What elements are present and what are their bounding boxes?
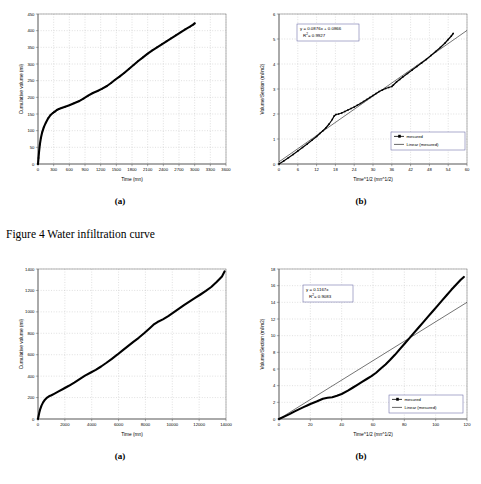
y-tick-label: 0 (273, 162, 276, 167)
y-tick-label: 5 (273, 37, 276, 42)
x-tick-label: 14000 (220, 422, 232, 427)
data-point-marker (138, 60, 140, 62)
data-point-marker (43, 127, 45, 129)
y-tick-label: 14 (271, 300, 276, 305)
x-tick-label: 18 (333, 167, 338, 172)
data-point-marker (385, 88, 387, 90)
data-point-marker (180, 32, 182, 34)
y-tick-label: 300 (27, 62, 35, 67)
data-point-marker (297, 150, 299, 152)
equation-text: y = 0.1167x (306, 287, 329, 292)
y-tick-label: 4 (273, 383, 276, 388)
data-point-marker (92, 92, 94, 94)
data-point-marker (128, 68, 130, 70)
x-tick-label: 54 (446, 167, 451, 172)
data-point-marker (37, 163, 39, 165)
data-point-marker (360, 103, 362, 105)
x-tick-label: 40 (339, 422, 344, 427)
data-point-marker (61, 107, 63, 109)
sublabel-bottom-a: (a) (0, 451, 240, 461)
data-point-marker (416, 66, 418, 68)
y-tick-label: 1000 (25, 309, 35, 314)
y-tick-label: 200 (27, 395, 35, 400)
legend-marker-icon (398, 135, 401, 138)
x-tick-label: 120 (464, 422, 472, 427)
x-tick-label: 1200 (96, 167, 106, 172)
data-point-marker (47, 118, 49, 120)
x-tick-label: 2400 (159, 167, 169, 172)
y-tick-label: 16 (271, 283, 276, 288)
x-tick-label: 6 (297, 167, 300, 172)
data-point-marker (447, 39, 449, 41)
chart-panel-top-b: 061218243036424854600123456Time^1/2 (mn^… (241, 0, 481, 215)
data-point-marker (54, 111, 56, 113)
data-point-marker (325, 127, 327, 129)
y-tick-label: 0 (32, 162, 35, 167)
data-point-marker (426, 59, 428, 61)
chart-bottom-a: 0200040006000800010000120001400002004006… (0, 255, 240, 455)
data-point-marker (142, 57, 144, 59)
legend-label: Linear (mesured) (405, 405, 437, 410)
y-tick-label: 350 (27, 45, 35, 50)
data-point-marker (288, 157, 290, 159)
data-point-marker (350, 108, 352, 110)
data-point-marker (333, 115, 335, 117)
x-tick-label: 2100 (143, 167, 153, 172)
data-point-marker (64, 106, 66, 108)
data-point-marker (369, 97, 371, 99)
data-point-marker (341, 112, 343, 114)
x-tick-label: 48 (427, 167, 432, 172)
data-point-marker (69, 105, 71, 107)
data-point-marker (316, 136, 318, 138)
y-tick-label: 1 (273, 137, 276, 142)
data-point-marker (101, 88, 103, 90)
data-point-marker (347, 109, 349, 111)
data-point-marker (353, 106, 355, 108)
data-point-marker (170, 38, 172, 40)
y-tick-label: 100 (27, 128, 35, 133)
y-tick-label: 1400 (25, 267, 35, 272)
y-tick-label: 6 (273, 367, 276, 372)
x-tick-label: 0 (278, 167, 281, 172)
y-axis-title: Volume/Section (ml/m2) (260, 63, 265, 114)
x-axis-title: Time (mn) (121, 177, 143, 182)
x-tick-label: 900 (82, 167, 90, 172)
data-point-marker (396, 81, 398, 83)
x-tick-label: 60 (371, 422, 376, 427)
legend-box (389, 395, 463, 413)
data-point-marker (338, 113, 340, 115)
y-axis-title: Cumulative volume (ml) (19, 318, 24, 369)
y-tick-label: 450 (27, 12, 35, 17)
x-tick-label: 0 (278, 422, 281, 427)
y-tick-label: 400 (27, 28, 35, 33)
data-point-marker (50, 114, 52, 116)
data-point-marker (123, 72, 125, 74)
data-point-marker (382, 89, 384, 91)
data-point-marker (402, 76, 404, 78)
x-tick-label: 1500 (112, 167, 122, 172)
figure-page: 0300600900120015001800210024002700300033… (0, 0, 481, 484)
x-tick-label: 3600 (221, 167, 231, 172)
data-point-marker (40, 137, 42, 139)
data-point-marker (440, 47, 442, 49)
data-point-marker (192, 24, 194, 26)
x-tick-label: 80 (402, 422, 407, 427)
data-point-marker (302, 147, 304, 149)
data-point-marker (283, 160, 285, 162)
y-tick-label: 400 (27, 374, 35, 379)
y-tick-label: 150 (27, 112, 35, 117)
data-point-marker (399, 79, 401, 81)
data-point-marker (52, 112, 54, 114)
x-axis-title: Time^1/2 (mn^1/2) (353, 177, 393, 182)
data-point-marker (322, 130, 324, 132)
y-tick-label: 4 (273, 62, 276, 67)
x-tick-label: 0 (37, 422, 40, 427)
x-tick-label: 24 (352, 167, 357, 172)
data-point-marker (411, 69, 413, 71)
data-point-marker (430, 55, 432, 57)
x-tick-label: 3000 (190, 167, 200, 172)
data-point-marker (435, 51, 437, 53)
data-point-marker (311, 140, 313, 142)
data-point-marker (56, 109, 58, 111)
data-point-marker (452, 33, 454, 35)
